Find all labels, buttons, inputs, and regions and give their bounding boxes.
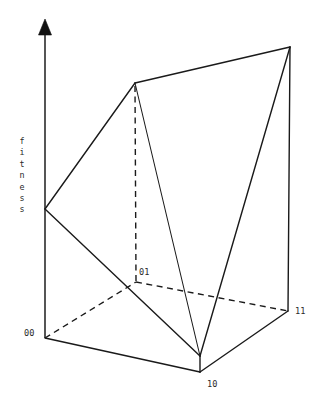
axis-title-letter-n: n <box>16 170 28 181</box>
surface-edge-11-10 <box>200 47 290 356</box>
fitness-landscape-canvas: 00 01 11 10 <box>0 0 322 404</box>
axis-title-letter-e: e <box>16 182 28 193</box>
base-edge-10-11 <box>200 311 288 372</box>
surface-edge-00-01 <box>45 83 135 209</box>
vertex-label-11: 11 <box>295 306 305 316</box>
base-edge-01-11 <box>136 282 288 311</box>
fitness-vertical-lines <box>135 47 290 372</box>
vertex-label-01: 01 <box>139 267 149 277</box>
vertical-line-11 <box>288 47 290 311</box>
axis-title-letter-f: f <box>16 136 28 147</box>
vertex-label-10: 10 <box>207 379 217 389</box>
axis-title-letter-s1: s <box>16 193 28 204</box>
base-edge-00-01 <box>45 282 136 338</box>
fitness-axis <box>39 19 52 338</box>
genotype-base-plane <box>45 282 288 372</box>
axis-title-letter-t: t <box>16 159 28 170</box>
axis-title-letter-s2: s <box>16 204 28 215</box>
axis-title-letter-i: i <box>16 147 28 158</box>
base-edge-00-10 <box>45 338 200 372</box>
vertical-line-01 <box>135 86 136 281</box>
vertex-label-00: 00 <box>24 328 34 338</box>
surface-edge-01-10 <box>135 83 200 356</box>
surface-edge-00-10 <box>45 209 200 356</box>
surface-edge-01-11 <box>135 47 290 83</box>
arrow-up-icon <box>39 19 52 35</box>
fitness-landscape-figure: 00 01 11 10 f i t n e s s <box>0 0 322 404</box>
fitness-surface-mesh <box>45 47 290 356</box>
